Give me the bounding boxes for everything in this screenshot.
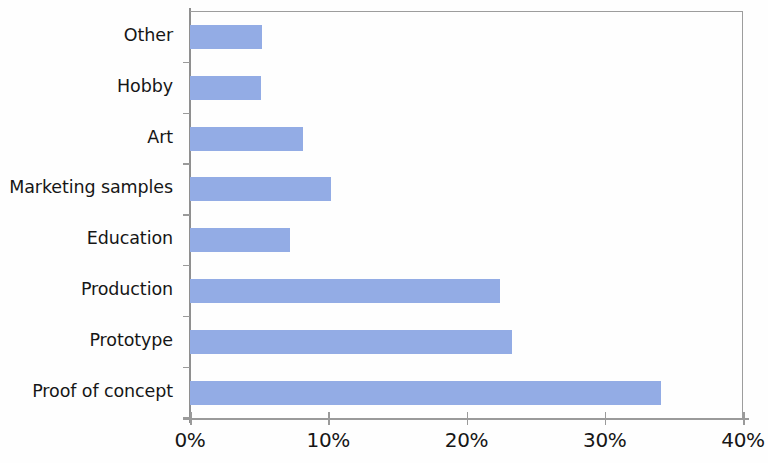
x-axis-tick (743, 412, 745, 425)
bar (190, 25, 262, 49)
x-axis-tick (328, 412, 330, 425)
y-axis-tick (183, 163, 190, 164)
category-label: Education (0, 229, 173, 248)
plot-area (190, 11, 743, 418)
y-axis-tick (183, 62, 190, 63)
bar-row (190, 368, 743, 418)
y-axis-tick (183, 214, 190, 215)
category-label: Other (0, 26, 173, 45)
y-axis-tick (183, 113, 190, 114)
category-label: Hobby (0, 77, 173, 96)
category-label: Prototype (0, 331, 173, 350)
bar-chart: OtherHobbyArtMarketing samplesEducationP… (0, 0, 768, 463)
x-axis-tick (190, 412, 192, 425)
x-axis-label: 0% (150, 428, 230, 452)
y-axis-tick (183, 417, 190, 418)
x-axis-label: 10% (288, 428, 368, 452)
bar-row (190, 114, 743, 164)
y-axis-tick (183, 265, 190, 266)
x-axis-label: 20% (427, 428, 507, 452)
bar-row (190, 164, 743, 214)
bar-row (190, 317, 743, 367)
category-label: Art (0, 128, 173, 147)
category-label: Marketing samples (0, 178, 173, 197)
bar-row (190, 12, 743, 62)
category-label: Proof of concept (0, 382, 173, 401)
bar (190, 330, 512, 354)
bar (190, 127, 303, 151)
x-axis-tick (467, 412, 469, 425)
bar (190, 228, 290, 252)
bar-row (190, 63, 743, 113)
category-label: Production (0, 280, 173, 299)
y-axis-tick (183, 367, 190, 368)
bar-row (190, 215, 743, 265)
bar (190, 177, 331, 201)
bar (190, 381, 661, 405)
category-axis: OtherHobbyArtMarketing samplesEducationP… (0, 0, 181, 418)
x-axis-label: 40% (703, 428, 768, 452)
x-axis-label: 30% (565, 428, 645, 452)
y-axis-tick (183, 316, 190, 317)
bar (190, 279, 500, 303)
bar-row (190, 266, 743, 316)
x-axis-tick (605, 412, 607, 425)
bar (190, 76, 261, 100)
